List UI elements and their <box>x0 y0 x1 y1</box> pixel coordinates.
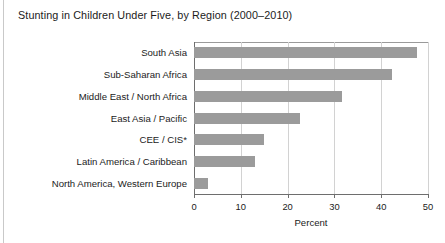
bar <box>194 113 300 124</box>
x-axis-tick <box>381 194 382 198</box>
bar <box>194 134 264 145</box>
x-axis-tick <box>428 194 429 198</box>
x-axis-tick <box>288 194 289 198</box>
bar-row: North America, Western Europe <box>194 178 428 189</box>
category-label: Sub-Saharan Africa <box>104 69 187 80</box>
plot-area: South AsiaSub-Saharan AfricaMiddle East … <box>194 42 428 194</box>
category-label: North America, Western Europe <box>52 178 187 189</box>
x-axis-tick-label: 20 <box>282 201 292 212</box>
chart-figure: Stunting in Children Under Five, by Regi… <box>0 0 445 243</box>
x-axis-tick <box>241 194 242 198</box>
bar-row: CEE / CIS* <box>194 134 428 145</box>
x-axis-tick-label: 10 <box>236 201 246 212</box>
x-axis-tick-label: 50 <box>423 201 433 212</box>
x-axis-line <box>194 194 428 195</box>
x-axis-tick-label: 0 <box>191 201 196 212</box>
bar <box>194 178 208 189</box>
bar <box>194 91 342 102</box>
x-axis-tick <box>334 194 335 198</box>
x-axis-tick-label: 40 <box>376 201 386 212</box>
x-axis-tick-label: 30 <box>329 201 339 212</box>
bar <box>194 156 255 167</box>
category-label: Middle East / North Africa <box>79 91 187 102</box>
bar <box>194 47 417 58</box>
bar-row: East Asia / Pacific <box>194 113 428 124</box>
x-axis-title: Percent <box>294 217 327 228</box>
bar <box>194 69 392 80</box>
chart-title: Stunting in Children Under Five, by Regi… <box>18 9 292 21</box>
category-label: East Asia / Pacific <box>111 113 187 124</box>
page-margin-rule <box>3 0 4 243</box>
category-label: South Asia <box>141 47 187 58</box>
bar-row: Middle East / North Africa <box>194 91 428 102</box>
bar-row: Sub-Saharan Africa <box>194 69 428 80</box>
bar-row: South Asia <box>194 47 428 58</box>
plot-top-border <box>194 42 428 43</box>
bar-row: Latin America / Caribbean <box>194 156 428 167</box>
gridline <box>428 42 429 194</box>
x-axis-tick <box>194 194 195 198</box>
category-label: CEE / CIS* <box>140 134 187 145</box>
category-label: Latin America / Caribbean <box>77 156 187 167</box>
